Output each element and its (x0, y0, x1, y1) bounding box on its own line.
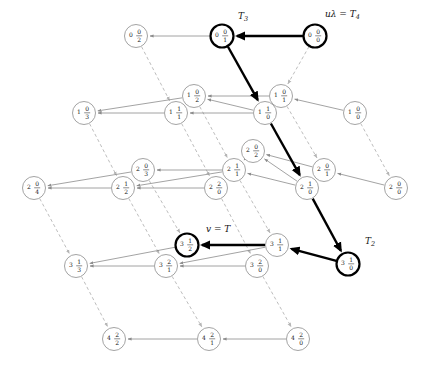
node-state-second: 1 (266, 105, 270, 112)
node-n421[interactable]: 421 (198, 328, 221, 351)
node-state-first: 4 (107, 334, 111, 341)
node-state-second: 1 (188, 237, 192, 244)
node-state-denominator: 3 (144, 170, 148, 177)
node-n002[interactable]: 002 (125, 25, 148, 48)
node-state-second: 0 (195, 88, 199, 95)
node-layer: 0020010001031111021101011002042122032202… (23, 25, 408, 351)
node-n201[interactable]: 201 (313, 159, 336, 182)
node-state-first: 2 (389, 183, 393, 190)
node-state-denominator: 3 (85, 113, 89, 120)
edge-n103-to-n212 (90, 124, 117, 176)
node-state-first: 1 (348, 108, 352, 115)
node-n312[interactable]: 312 (176, 234, 199, 257)
edge-n212-to-n321 (129, 199, 159, 254)
node-state-first: 2 (227, 165, 231, 172)
node-state-denominator: 1 (235, 170, 239, 177)
edge-n102-to-n211 (200, 107, 228, 158)
node-state-second: 1 (278, 237, 282, 244)
node-state-second: 0 (85, 105, 89, 112)
node-n101[interactable]: 101 (270, 85, 293, 108)
node-n000[interactable]: 000 (304, 25, 327, 48)
node-n203[interactable]: 203 (132, 159, 155, 182)
node-state-second: 2 (299, 331, 303, 338)
node-state-denominator: 1 (278, 245, 282, 252)
node-state-first: 0 (215, 31, 219, 38)
graph-canvas: 0020010001031111021101011002042122032202… (0, 0, 425, 367)
node-state-denominator: 0 (308, 188, 312, 195)
node-n420[interactable]: 420 (287, 328, 310, 351)
node-state-first: 0 (129, 31, 133, 38)
node-state-first: 2 (246, 146, 250, 153)
node-n110[interactable]: 110 (254, 102, 277, 125)
edge-n001-to-n110 (228, 46, 258, 99)
node-n212[interactable]: 212 (112, 177, 135, 200)
node-n200[interactable]: 200 (385, 177, 408, 200)
node-n210[interactable]: 210 (296, 177, 319, 200)
node-state-first: 3 (180, 240, 184, 247)
node-state-denominator: 2 (254, 151, 258, 158)
node-state-denominator: 0 (217, 188, 221, 195)
node-state-denominator: 1 (223, 36, 227, 43)
node-state-second: 0 (356, 105, 360, 112)
node-n100[interactable]: 100 (344, 102, 367, 125)
node-state-denominator: 1 (167, 266, 171, 273)
node-state-first: 2 (116, 183, 120, 190)
edge-n211-to-n311 (240, 180, 270, 232)
node-state-denominator: 4 (35, 188, 39, 195)
node-state-first: 2 (27, 183, 31, 190)
node-n313[interactable]: 313 (65, 255, 88, 278)
node-state-first: 3 (250, 261, 254, 268)
node-n103[interactable]: 103 (73, 102, 96, 125)
node-state-first: 1 (169, 108, 173, 115)
node-state-second: 2 (258, 258, 262, 265)
edge-n320-to-n420 (263, 276, 291, 326)
node-state-denominator: 2 (195, 96, 199, 103)
edge-n000-to-n101 (288, 46, 309, 83)
node-state-second: 0 (254, 143, 258, 150)
edge-n110-to-n210 (271, 123, 300, 174)
node-state-first: 2 (136, 165, 140, 172)
node-state-second: 0 (35, 180, 39, 187)
node-state-second: 1 (177, 105, 181, 112)
node-n211[interactable]: 211 (223, 159, 246, 182)
node-state-first: 4 (202, 334, 206, 341)
node-n422[interactable]: 422 (103, 328, 126, 351)
edge-n204-to-n313 (40, 199, 70, 254)
node-state-second: 2 (210, 331, 214, 338)
edge-n100-to-n101 (295, 99, 344, 110)
node-n320[interactable]: 320 (246, 255, 269, 278)
edge-n111-to-n220 (182, 124, 210, 176)
node-state-second: 0 (325, 162, 329, 169)
node-n311[interactable]: 311 (266, 234, 289, 257)
node-state-second: 1 (349, 256, 353, 263)
node-state-first: 2 (300, 183, 304, 190)
node-n102[interactable]: 102 (183, 85, 206, 108)
node-state-second: 1 (77, 258, 81, 265)
node-n111[interactable]: 111 (165, 102, 188, 125)
node-state-denominator: 1 (282, 96, 286, 103)
node-n204[interactable]: 204 (23, 177, 46, 200)
node-n310[interactable]: 310 (337, 253, 360, 276)
node-state-first: 3 (341, 259, 345, 266)
node-state-denominator: 3 (77, 266, 81, 273)
edge-n310-to-n311 (291, 249, 336, 261)
external-label-lbl-t3: T3 (238, 11, 248, 23)
node-state-second: 2 (217, 180, 221, 187)
node-state-denominator: 2 (115, 339, 119, 346)
node-state-denominator: 0 (258, 266, 262, 273)
external-label-lbl-t2: T2 (365, 236, 375, 248)
node-state-first: 3 (69, 261, 73, 268)
node-n202[interactable]: 202 (242, 140, 265, 163)
node-state-first: 1 (258, 108, 262, 115)
node-n001[interactable]: 001 (211, 25, 234, 48)
node-n220[interactable]: 220 (205, 177, 228, 200)
node-state-second: 1 (308, 180, 312, 187)
node-state-denominator: 0 (356, 113, 360, 120)
node-state-second: 0 (282, 88, 286, 95)
node-state-second: 0 (137, 28, 141, 35)
node-state-first: 1 (77, 108, 81, 115)
node-n321[interactable]: 321 (155, 255, 178, 278)
node-state-first: 0 (308, 31, 312, 38)
node-state-first: 3 (159, 261, 163, 268)
node-state-first: 2 (209, 183, 213, 190)
